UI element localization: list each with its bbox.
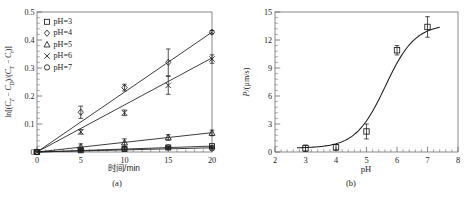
panel-b-x-tick-label: 6 <box>395 156 399 165</box>
panel-a-y-tick-label: 0.5 <box>25 8 35 17</box>
panel-b-y-ticks: 03691215 <box>264 8 280 157</box>
panel-b-caption: (b) <box>234 178 468 188</box>
panel-b-x-ticks: 2345678 <box>273 147 460 165</box>
panel-a-y-minor-ticks <box>37 18 40 147</box>
panel-b-y-axis-label: P/(μm/s) <box>242 67 251 97</box>
panel-a-fit-line <box>37 32 212 152</box>
panel-a-caption: (a) <box>0 178 234 188</box>
panel-a-y-tick-label: 0.1 <box>25 120 35 129</box>
panel-b-x-axis-label: pH <box>361 164 372 174</box>
chart-panel-b: 03691215 2345678 P/(μm/s) pH (b) <box>234 0 468 197</box>
panel-b-x-tick-label: 4 <box>334 156 339 165</box>
panel-b-sigmoid-curve <box>297 27 440 147</box>
legend-label: pH=3 <box>54 17 73 26</box>
panel-a-x-tick-label: 15 <box>164 156 172 165</box>
panel-b-x-tick-label: 8 <box>456 156 460 165</box>
panel-b-svg: 03691215 2345678 P/(μm/s) pH <box>234 0 468 197</box>
panel-b-y-tick-label: 15 <box>264 8 272 17</box>
panel-b-y-tick-label: 3 <box>268 120 272 129</box>
legend-label: pH=7 <box>54 63 73 72</box>
legend-marker-circle <box>44 65 49 70</box>
legend-marker-triangle <box>44 41 50 47</box>
legend-label: pH=6 <box>54 51 73 60</box>
chart-panel-a: 00.10.20.30.40.5 05101520 pH=3pH=4pH=5pH… <box>0 0 234 197</box>
panel-a-y-tick-label: 0.2 <box>25 92 35 101</box>
figure-container: 00.10.20.30.40.5 05101520 pH=3pH=4pH=5pH… <box>0 0 468 197</box>
panel-a-error-bars <box>78 30 214 151</box>
panel-a-x-tick-label: 0 <box>35 156 39 165</box>
panel-b-y-minor-ticks <box>275 18 278 147</box>
panel-b-y-tick-label: 9 <box>268 64 272 73</box>
panel-b-x-tick-label: 3 <box>303 156 307 165</box>
legend-label: pH=4 <box>54 28 73 37</box>
legend-marker-diamond <box>44 30 49 36</box>
panel-a-y-tick-label: 0.3 <box>25 64 35 73</box>
panel-b-y-tick-label: 0 <box>268 148 272 157</box>
panel-a-y-tick-label: 0 <box>31 148 35 157</box>
panel-a-fit-lines <box>37 32 212 152</box>
panel-a-svg: 00.10.20.30.40.5 05101520 pH=3pH=4pH=5pH… <box>0 0 234 197</box>
panel-a-x-tick-label: 20 <box>208 156 216 165</box>
panel-b-x-tick-label: 2 <box>273 156 277 165</box>
legend-label: pH=5 <box>54 40 73 49</box>
panel-b-y-tick-label: 6 <box>268 92 272 101</box>
panel-a-y-tick-label: 0.4 <box>25 36 35 45</box>
panel-a-x-axis-label: 时间/min <box>108 163 140 173</box>
panel-b-x-tick-label: 7 <box>425 156 429 165</box>
panel-b-y-tick-label: 12 <box>264 36 272 45</box>
panel-a-x-tick-label: 5 <box>79 156 83 165</box>
panel-a-y-ticks: 00.10.20.30.40.5 <box>25 8 43 157</box>
panel-a-fit-line <box>37 58 212 152</box>
panel-a-y-axis-label: ln[(CT − CD)/(CT − Ct)] <box>4 46 15 118</box>
legend-marker-square <box>45 19 50 24</box>
panel-a-legend: pH=3pH=4pH=5pH=6pH=7 <box>44 17 72 72</box>
panel-b-error-bars <box>303 17 430 152</box>
